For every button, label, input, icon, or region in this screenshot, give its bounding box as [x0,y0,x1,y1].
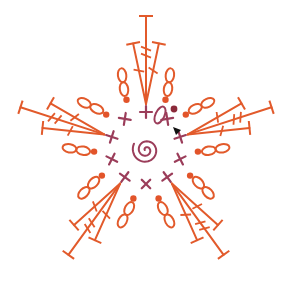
stitch-top [42,121,43,135]
stitch-bar [103,211,111,219]
chain-stitch-icon [201,145,216,156]
petal-5 [18,96,109,156]
stitch-bar [180,215,191,216]
chain-stitch-icon [200,185,216,201]
slip-stitch-dot-icon [155,195,161,201]
petal-4 [63,172,137,258]
stitch-top [63,251,74,259]
slip-stitch-dot-icon [195,148,201,154]
stitch-top [152,42,166,45]
stitch-stroke [124,113,126,125]
stitch-bar [240,112,241,123]
stitch-bar [217,112,219,123]
magic-ring-spiral-icon [133,141,156,161]
single-crochet-icon [172,151,188,167]
chain-stitch-icon [117,68,127,83]
stitch-top [249,121,250,135]
chain-stitch-icon [119,82,129,97]
stitch-post [133,43,146,104]
single-crochet-icon [104,129,119,144]
chain-stitch-icon [76,185,92,201]
chain-stitch-icon [76,145,91,156]
petal-1 [117,16,175,104]
petal-2 [183,96,274,156]
stitch-top [238,97,245,109]
stitch-bar [134,70,145,72]
slip-stitch-dot-icon [130,195,136,201]
single-crochet-icon [118,112,132,126]
chain-stitch-icon [215,143,230,154]
single-crochet-icon [104,151,120,167]
join-dot-icon [171,106,178,113]
chain-stitch-icon [116,213,130,229]
single-crochet-icon [159,169,176,186]
stitch-post [68,184,120,255]
petal-3 [155,172,229,258]
slip-stitch-dot-icon [91,148,97,154]
crochet-flower-chart [0,0,292,284]
stitch-top [218,251,229,259]
slip-stitch-dot-icon [162,97,168,103]
chain-stitch-icon [200,96,216,110]
stitch-top [47,97,54,109]
chain-stitch-icon [163,82,173,97]
stitch-top [126,42,140,45]
single-crochet-icon [116,169,133,186]
chain-stitch-icon [152,105,168,125]
chain-stitch-icon [162,213,176,229]
stitch-stroke [164,172,171,182]
stitch-stroke [121,172,128,182]
chain-stitch-icon [76,96,92,110]
single-crochet-icon [138,176,155,193]
single-crochet-icon [140,106,152,118]
slip-stitch-dot-icon [123,97,129,103]
stitch-bar [234,114,235,125]
stitch-post [172,184,224,255]
chain-stitch-icon [165,68,175,83]
chain-stitch-icon [62,143,77,154]
